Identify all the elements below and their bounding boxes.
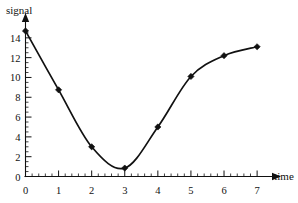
y-tick-label: 12 bbox=[10, 53, 21, 64]
y-axis-tick-labels: 02468101214 bbox=[10, 33, 21, 183]
data-point-marker bbox=[254, 44, 260, 50]
axes-group bbox=[22, 13, 281, 180]
y-axis-title: signal bbox=[6, 4, 32, 16]
y-tick-label: 14 bbox=[10, 33, 21, 44]
data-series-curve bbox=[26, 31, 258, 169]
x-tick-label: 5 bbox=[188, 185, 193, 196]
chart-plot-area: 01234567 02468101214 signal time bbox=[0, 0, 298, 203]
x-tick-label: 3 bbox=[122, 185, 127, 196]
x-tick-label: 7 bbox=[254, 185, 259, 196]
x-tick-label: 2 bbox=[89, 185, 94, 196]
x-tick-label: 1 bbox=[56, 185, 61, 196]
y-tick-label: 2 bbox=[15, 152, 20, 163]
x-tick-label: 4 bbox=[155, 185, 161, 196]
x-axis-title: time bbox=[274, 170, 294, 182]
y-tick-label: 8 bbox=[15, 92, 20, 103]
data-point-marker bbox=[122, 165, 128, 171]
x-tick-label: 6 bbox=[221, 185, 226, 196]
chart-figure: 01234567 02468101214 signal time bbox=[0, 0, 298, 203]
x-axis-major-ticks bbox=[26, 171, 258, 177]
y-tick-label: 6 bbox=[15, 112, 20, 123]
x-tick-label: 0 bbox=[23, 185, 28, 196]
y-tick-label: 10 bbox=[10, 72, 21, 83]
data-point-marker bbox=[221, 53, 227, 59]
x-axis-tick-labels: 01234567 bbox=[23, 185, 260, 196]
data-point-markers bbox=[22, 28, 260, 171]
y-tick-label: 0 bbox=[15, 172, 20, 183]
y-tick-label: 4 bbox=[15, 132, 21, 143]
